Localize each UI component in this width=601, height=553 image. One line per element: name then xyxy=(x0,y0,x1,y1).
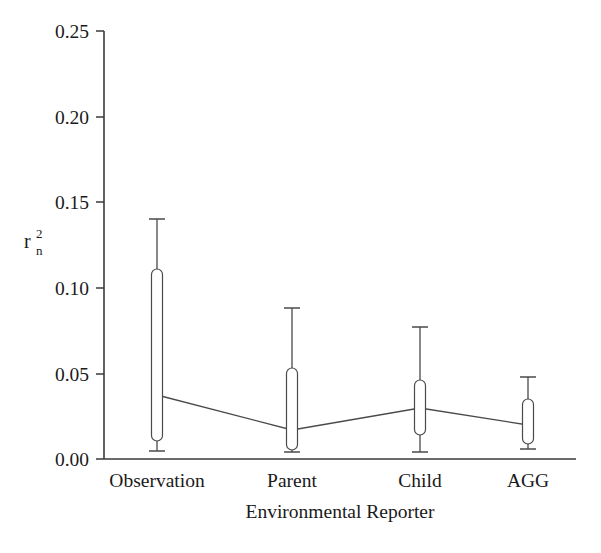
box-observation xyxy=(152,269,163,441)
y-tick-label-0.10: 0.10 xyxy=(55,278,89,299)
data-group-agg xyxy=(520,377,536,449)
x-axis-title: Environmental Reporter xyxy=(246,501,435,522)
box-agg xyxy=(523,399,534,444)
y-axis-label-subscript: n xyxy=(36,243,43,258)
y-axis-label-base: r xyxy=(24,230,31,252)
y-tick-label-0.00: 0.00 xyxy=(55,449,89,470)
y-tick-label-0.25: 0.25 xyxy=(55,21,89,42)
box-parent xyxy=(287,368,298,450)
x-axis-labels: Observation Parent Child AGG xyxy=(109,470,549,491)
x-label-observation: Observation xyxy=(109,470,205,491)
x-label-agg: AGG xyxy=(507,470,549,491)
y-tick-label-0.20: 0.20 xyxy=(55,107,89,128)
y-axis-label-superscript: 2 xyxy=(36,226,43,241)
plot-area: r 2 n 0.25 0.20 0.15 0.10 0.05 0.00 xyxy=(0,0,601,553)
x-label-parent: Parent xyxy=(267,470,317,491)
y-axis-ticks: 0.25 0.20 0.15 0.10 0.05 0.00 xyxy=(55,21,104,470)
data-group-child xyxy=(412,327,428,452)
chart-figure: r 2 n 0.25 0.20 0.15 0.10 0.05 0.00 xyxy=(0,0,601,553)
series-connecting-line xyxy=(157,395,528,430)
x-label-child: Child xyxy=(398,470,442,491)
data-group-parent xyxy=(284,308,300,452)
y-axis-label: r 2 n xyxy=(24,226,43,258)
y-tick-label-0.05: 0.05 xyxy=(55,364,89,385)
y-tick-label-0.15: 0.15 xyxy=(55,192,89,213)
box-child xyxy=(415,380,426,435)
data-group-observation xyxy=(149,219,165,451)
